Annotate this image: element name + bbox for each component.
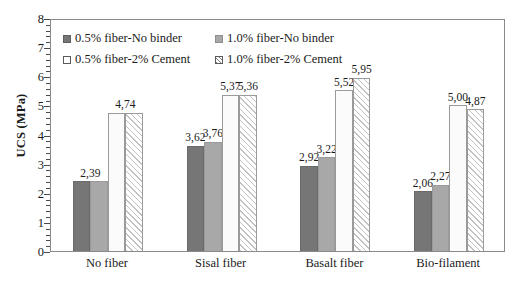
x-axis-label-bio-filament: Bio-filament [416,256,480,271]
y-axis-tick-2: 2 [20,188,44,201]
x-axis-label-basalt-fiber: Basalt fiber [305,256,363,271]
y-axis-tick-4: 4 [20,129,44,142]
figure-container: UCS (MPa) 012345678 0.5% fiber-No binder… [0,0,517,294]
bar-series-container: 2,394,743,623,765,375,362,923,225,525,95… [51,20,504,251]
bar-value-label: 2,27 [430,171,450,183]
x-axis-label-no-fiber: No fiber [86,256,128,271]
bar-1-bio-filament[interactable] [414,191,432,251]
y-axis-tick-5: 5 [20,100,44,113]
bar-2-bio-filament[interactable] [432,185,450,251]
bar-3-bio-filament[interactable] [449,105,467,251]
y-axis-tick-3: 3 [20,158,44,171]
y-axis-tick-labels: 012345678 [20,19,44,252]
x-axis-category-labels: No fiberSisal fiberBasalt fiberBio-filam… [50,256,505,276]
bar-group-bio-filament: 2,062,275,004,87 [51,20,506,251]
y-axis-tick-1: 1 [20,217,44,230]
bar-value-label: 4,87 [465,96,485,108]
plot-area: 0.5% fiber-No binder 1.0% fiber-No binde… [50,19,505,252]
y-axis-tick-0: 0 [20,246,44,259]
y-axis-tick-6: 6 [20,71,44,84]
bar-4-bio-filament[interactable] [467,109,485,251]
y-major-tick [44,252,50,253]
y-axis-tick-7: 7 [20,42,44,55]
x-axis-label-sisal-fiber: Sisal fiber [195,256,246,271]
y-axis-tick-8: 8 [20,13,44,26]
